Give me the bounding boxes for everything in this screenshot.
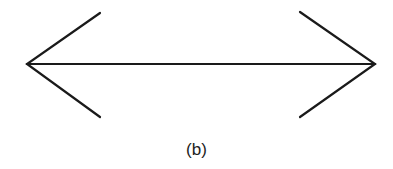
figure-caption: (b) (0, 140, 393, 160)
